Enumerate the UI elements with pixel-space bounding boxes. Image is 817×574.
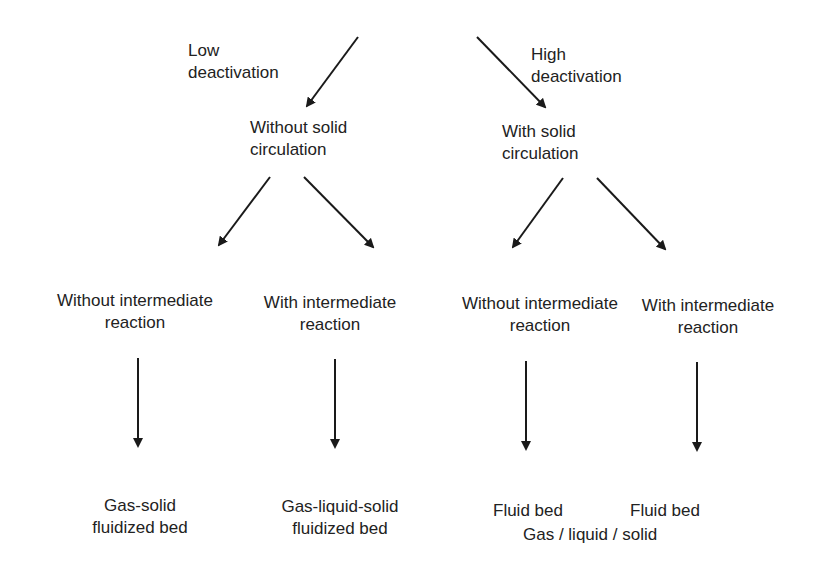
node-a-without-intermediate: Without intermediate reaction (20, 290, 250, 334)
node-gas-liquid-solid: Gas-liquid-solid fluidized bed (260, 496, 420, 540)
node-line: fluidized bed (70, 517, 210, 539)
node-line: reaction (20, 312, 250, 334)
arrow-to-a-with (304, 177, 373, 247)
node-a-with-intermediate: With intermediate reaction (240, 292, 420, 336)
node-line: Fluid bed (493, 500, 563, 522)
node-line: Gas-liquid-solid (260, 496, 420, 518)
node-line: reaction (623, 317, 793, 339)
node-line: circulation (250, 139, 347, 161)
node-fluid-bed-2: Fluid bed (630, 500, 700, 522)
node-fluid-bed-phases: Gas / liquid / solid (523, 524, 657, 546)
arrow-to-b-with (597, 178, 665, 249)
node-line: Gas-solid (70, 495, 210, 517)
node-high-deactivation: High deactivation (531, 44, 622, 88)
node-gas-solid: Gas-solid fluidized bed (70, 495, 210, 539)
arrows-layer (0, 0, 817, 574)
node-line: Without solid (250, 117, 347, 139)
node-line: deactivation (531, 66, 622, 88)
arrow-low-deactivation (307, 37, 358, 106)
arrow-to-b-without (513, 178, 563, 247)
node-line: Low (188, 40, 279, 62)
node-line: Without intermediate (425, 293, 655, 315)
node-line: With intermediate (240, 292, 420, 314)
node-line: With solid (502, 121, 579, 143)
node-line: reaction (240, 314, 420, 336)
node-line: deactivation (188, 62, 279, 84)
arrow-to-a-without (219, 177, 270, 245)
node-line: Without intermediate (20, 290, 250, 312)
node-b-without-intermediate: Without intermediate reaction (425, 293, 655, 337)
node-line: Gas / liquid / solid (523, 524, 657, 546)
node-without-solid-circulation: Without solid circulation (250, 117, 347, 161)
node-line: fluidized bed (260, 518, 420, 540)
node-line: Fluid bed (630, 500, 700, 522)
node-b-with-intermediate: With intermediate reaction (623, 295, 793, 339)
node-line: reaction (425, 315, 655, 337)
node-low-deactivation: Low deactivation (188, 40, 279, 84)
node-with-solid-circulation: With solid circulation (502, 121, 579, 165)
node-line: circulation (502, 143, 579, 165)
node-line: High (531, 44, 622, 66)
node-fluid-bed-1: Fluid bed (493, 500, 563, 522)
node-line: With intermediate (623, 295, 793, 317)
